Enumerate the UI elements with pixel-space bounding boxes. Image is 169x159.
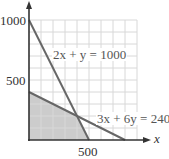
equation-label-2: 3x + 6y = 2400 <box>96 112 169 125</box>
x-axis-arrow-icon <box>143 137 151 143</box>
y-tick-1000: 1000 <box>0 14 26 27</box>
y-tick-500: 500 <box>6 74 26 87</box>
x-tick-500: 500 <box>78 145 98 158</box>
y-axis-arrow-icon <box>26 1 32 9</box>
equation-label-1: 2x + y = 1000 <box>52 48 127 61</box>
x-axis-label: x <box>154 132 160 145</box>
